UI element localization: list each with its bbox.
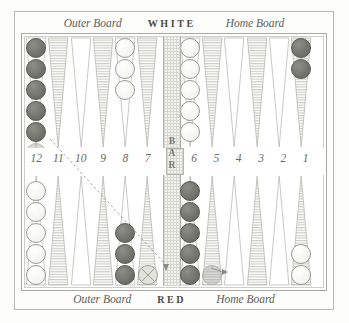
point-number-3: 3 — [250, 152, 272, 164]
drop-target-checker[interactable] — [138, 265, 158, 285]
top-player-label: WHITE — [148, 18, 196, 29]
bar-top[interactable] — [163, 37, 181, 148]
checker-red[interactable] — [26, 38, 46, 58]
point-number-8: 8 — [114, 152, 136, 164]
point-number-4: 4 — [228, 152, 250, 164]
bottom-outer-board-label: Outer Board — [73, 293, 131, 305]
checker-white[interactable] — [180, 122, 200, 142]
point-12-bottom[interactable] — [25, 175, 47, 286]
point-number-5: 5 — [205, 152, 227, 164]
point-11-top[interactable] — [47, 37, 69, 148]
checker-white[interactable] — [180, 38, 200, 58]
bottom-half — [25, 175, 325, 286]
point-7-top[interactable] — [136, 37, 158, 148]
backgammon-board: Outer Board WHITE Home Board 12111098765… — [0, 0, 349, 323]
bar-center-cell — [166, 148, 184, 175]
bottom-home-board-label: Home Board — [216, 293, 275, 305]
point-8-bottom[interactable] — [114, 175, 136, 286]
checker-red[interactable] — [180, 223, 200, 243]
checker-red[interactable] — [180, 202, 200, 222]
checker-white[interactable] — [180, 59, 200, 79]
point-number-1: 1 — [295, 152, 317, 164]
point-12-top[interactable] — [25, 37, 47, 148]
point-10-top[interactable] — [70, 37, 92, 148]
point-11-bottom[interactable] — [47, 175, 69, 286]
point-5-top[interactable] — [201, 37, 223, 148]
checker-red[interactable] — [26, 80, 46, 100]
checker-red[interactable] — [180, 181, 200, 201]
point-8-top[interactable] — [114, 37, 136, 148]
point-number-2: 2 — [272, 152, 294, 164]
playfield: 121110987654321 BAR — [21, 33, 327, 291]
point-6-bottom[interactable] — [179, 175, 201, 286]
point-9-top[interactable] — [92, 37, 114, 148]
point-10-bottom[interactable] — [70, 175, 92, 286]
checker-white[interactable] — [26, 223, 46, 243]
top-outer-board-label: Outer Board — [64, 17, 122, 29]
point-6-top[interactable] — [179, 37, 201, 148]
point-2-top[interactable] — [268, 37, 290, 148]
bottom-label-row: Outer Board RED Home Board — [14, 288, 334, 310]
point-1-bottom[interactable] — [290, 175, 312, 286]
point-1-top[interactable] — [290, 37, 312, 148]
point-number-11: 11 — [47, 152, 69, 164]
checker-white[interactable] — [180, 101, 200, 121]
point-number-12: 12 — [25, 152, 47, 164]
point-3-bottom[interactable] — [246, 175, 268, 286]
point-7-bottom[interactable] — [136, 175, 158, 286]
point-5-bottom[interactable] — [201, 175, 223, 286]
point-number-9: 9 — [92, 152, 114, 164]
point-9-bottom[interactable] — [92, 175, 114, 286]
top-home-board-label: Home Board — [226, 17, 285, 29]
point-2-bottom[interactable] — [268, 175, 290, 286]
checker-white[interactable] — [26, 265, 46, 285]
point-number-7: 7 — [137, 152, 159, 164]
point-number-6: 6 — [183, 152, 205, 164]
checker-white[interactable] — [180, 80, 200, 100]
point-numbers-strip: 121110987654321 — [25, 148, 325, 175]
top-label-row: Outer Board WHITE Home Board — [14, 12, 334, 34]
point-number-10: 10 — [70, 152, 92, 164]
checker-white[interactable] — [26, 181, 46, 201]
checker-red[interactable] — [180, 244, 200, 264]
bottom-player-label: RED — [157, 294, 186, 305]
checker-red[interactable] — [26, 59, 46, 79]
point-3-top[interactable] — [246, 37, 268, 148]
checker-red[interactable] — [26, 122, 46, 142]
checker-white[interactable] — [26, 202, 46, 222]
checker-white[interactable] — [26, 244, 46, 264]
checker-red[interactable] — [26, 101, 46, 121]
point-4-bottom[interactable] — [223, 175, 245, 286]
checker-red[interactable] — [180, 265, 200, 285]
point-4-top[interactable] — [223, 37, 245, 148]
